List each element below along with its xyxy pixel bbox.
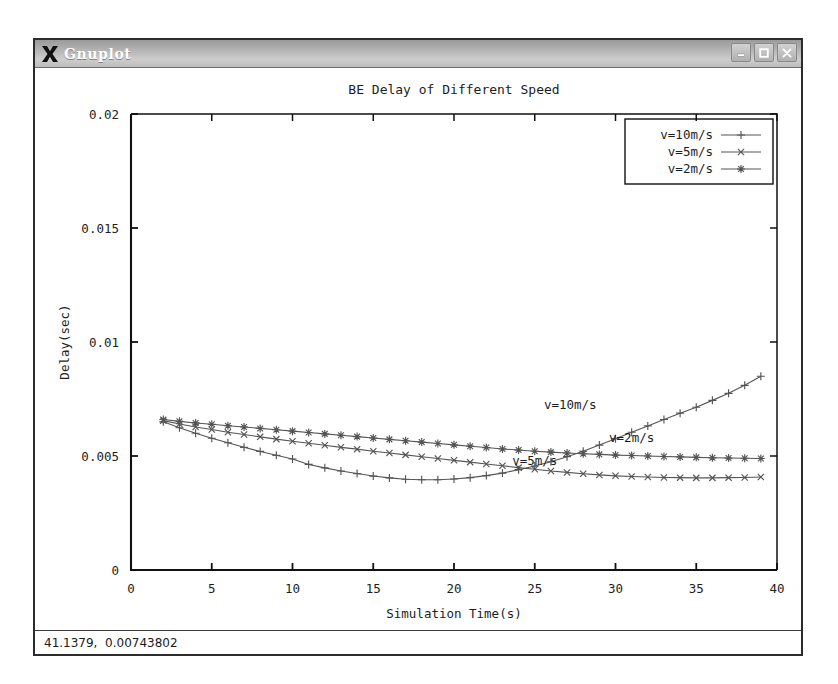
data-point [741, 381, 749, 389]
data-point [595, 441, 603, 449]
y-axis-label: Delay(sec) [57, 304, 72, 379]
x-logo-icon [38, 43, 62, 65]
data-point [337, 431, 345, 439]
data-point [385, 474, 393, 482]
x-tick-label: 30 [608, 581, 623, 596]
data-point [272, 426, 280, 434]
legend-label: v=5m/s [668, 144, 713, 159]
data-point [175, 417, 183, 425]
x-tick-label: 15 [366, 581, 381, 596]
data-point [208, 420, 216, 428]
axis-frame-secondary [131, 114, 777, 570]
data-point [321, 464, 329, 472]
series-annotation: v=10m/s [544, 397, 597, 412]
data-point [482, 472, 490, 480]
y-tick-label: 0.005 [81, 449, 119, 464]
data-point [563, 449, 571, 457]
legend-label: v=2m/s [668, 161, 713, 176]
series-v-2m-s [159, 416, 765, 463]
data-point [305, 460, 313, 468]
data-point [418, 476, 426, 484]
data-point [725, 389, 733, 397]
data-point [737, 165, 745, 173]
series-line [163, 420, 761, 459]
y-tick-label: 0.015 [81, 221, 119, 236]
data-point [402, 475, 410, 483]
data-point [289, 427, 297, 435]
data-point [385, 435, 393, 443]
minimize-button[interactable] [731, 43, 751, 62]
data-point [289, 455, 297, 463]
data-point [337, 467, 345, 475]
data-point [644, 452, 652, 460]
data-point [208, 434, 216, 442]
data-point [757, 455, 765, 463]
data-point [353, 470, 361, 478]
data-point [466, 474, 474, 482]
x-tick-label: 35 [689, 581, 704, 596]
title-bar[interactable]: Gnuplot [35, 40, 801, 68]
data-point [240, 443, 248, 451]
data-point [708, 396, 716, 404]
series-annotation: v=5m/s [512, 453, 557, 468]
series-annotation: v=2m/s [609, 430, 654, 445]
data-point [612, 451, 620, 459]
y-tick-label: 0.01 [89, 335, 119, 350]
data-point [660, 452, 668, 460]
data-point [402, 437, 410, 445]
cursor-coordinates: 41.1379, 0.00743802 [44, 636, 178, 650]
x-tick-label: 5 [208, 581, 216, 596]
data-point [321, 430, 329, 438]
data-point [676, 409, 684, 417]
data-point [757, 372, 765, 380]
gnuplot-plot: BE Delay of Different Speed 00.0050.010.… [35, 68, 801, 631]
data-point [272, 451, 280, 459]
data-point [418, 438, 426, 446]
data-point [708, 454, 716, 462]
data-point [498, 469, 506, 477]
data-point [628, 452, 636, 460]
data-point [579, 450, 587, 458]
x-axis-label: Simulation Time(s) [386, 606, 521, 621]
data-point [192, 419, 200, 427]
data-point [676, 453, 684, 461]
window-title: Gnuplot [64, 46, 131, 62]
data-point [434, 439, 442, 447]
data-point [369, 434, 377, 442]
x-tick-label: 0 [127, 581, 135, 596]
status-bar: 41.1379, 0.00743802 [35, 630, 801, 654]
data-point [737, 131, 745, 139]
axis-frame-main [131, 114, 777, 570]
data-point [256, 424, 264, 432]
data-point [434, 476, 442, 484]
chart-title: BE Delay of Different Speed [348, 82, 559, 97]
data-point [482, 444, 490, 452]
data-point [692, 453, 700, 461]
y-tick-label: 0 [111, 563, 119, 578]
y-tick-label: 0.02 [89, 107, 119, 122]
data-point [450, 475, 458, 483]
close-button[interactable] [777, 43, 797, 62]
plot-canvas[interactable]: BE Delay of Different Speed 00.0050.010.… [35, 68, 801, 631]
data-point [644, 422, 652, 430]
data-point [450, 441, 458, 449]
x-tick-label: 40 [769, 581, 784, 596]
data-point [159, 416, 167, 424]
data-point [692, 403, 700, 411]
data-point [498, 445, 506, 453]
data-point [224, 422, 232, 430]
data-point [256, 447, 264, 455]
data-point [595, 450, 603, 458]
maximize-button[interactable] [754, 43, 774, 62]
x-tick-label: 20 [446, 581, 461, 596]
window-controls [731, 43, 797, 62]
data-point [369, 472, 377, 480]
data-point [240, 423, 248, 431]
data-point [725, 454, 733, 462]
data-point [224, 439, 232, 447]
data-point [741, 454, 749, 462]
data-point [660, 416, 668, 424]
data-point [353, 433, 361, 441]
legend-label: v=10m/s [660, 127, 713, 142]
data-point [305, 429, 313, 437]
